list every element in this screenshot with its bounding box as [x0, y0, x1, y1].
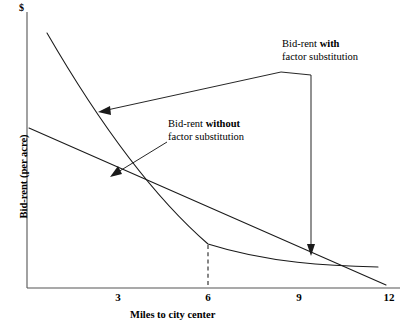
arrow-with-substitution-upper-line — [107, 72, 281, 110]
x-tick-label-9: 9 — [288, 291, 310, 304]
x-axis-title: Miles to city center — [130, 309, 215, 322]
x-tick-label-3: 3 — [107, 291, 129, 304]
arrow-with-substitution-vertical-line — [281, 72, 311, 247]
y-axis-title: Bid-rent (per acre) — [18, 116, 31, 236]
x-tick-label-6: 6 — [197, 291, 219, 304]
bid-rent-with-substitution-curve — [47, 33, 378, 267]
bid-rent-chart-figure: $ Bid-rent (per acre) 3 6 9 12 Miles to … — [0, 0, 410, 330]
annotation-with-line1: Bid-rent with — [282, 38, 339, 49]
arrow-with-substitution-head — [307, 244, 315, 256]
arrow-without-substitution-line — [118, 142, 167, 172]
annotation-without-line2: factor substitution — [168, 131, 244, 142]
annotation-bid-rent-without-substitution: Bid-rent without factor substitution — [168, 118, 244, 144]
annotation-without-line1: Bid-rent without — [168, 118, 240, 129]
annotation-bid-rent-with-substitution: Bid-rent with factor substitution — [282, 38, 358, 64]
arrow-with-substitution-upper-head — [98, 106, 111, 115]
y-axis-unit-symbol: $ — [19, 2, 24, 14]
x-tick-label-12: 12 — [378, 291, 400, 304]
annotation-with-line2: factor substitution — [282, 51, 358, 62]
